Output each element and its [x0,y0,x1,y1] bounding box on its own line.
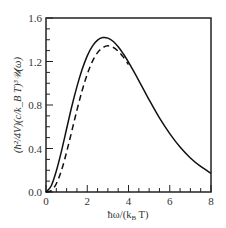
x-tick-label: 4 [126,195,132,207]
chart: 024680.00.40.81.21.6 ħω/(kB T) (ħ²/4V)(c… [0,0,226,228]
x-tick-label: 0 [43,195,49,207]
x-tick-label: 2 [85,195,91,207]
y-tick-label: 1.6 [28,12,42,24]
tick-labels: 024680.00.40.81.21.6 [28,12,214,207]
dashed-curve [46,46,129,192]
series-layer [46,37,211,192]
x-tick-label: 8 [208,195,214,207]
solid-curve [46,37,211,192]
y-tick-label: 1.2 [28,56,42,68]
x-tick-label: 6 [167,195,173,207]
y-tick-label: 0.0 [28,186,42,198]
y-tick-label: 0.8 [28,99,42,111]
tick-marks [46,18,211,192]
y-tick-label: 0.4 [28,143,42,155]
y-axis-label: (ħ²/4V)(c/k_B T)³𝒰(ω) [12,57,24,153]
plot-frame [46,18,211,192]
x-axis-label: ħω/(kB T) [108,209,149,222]
